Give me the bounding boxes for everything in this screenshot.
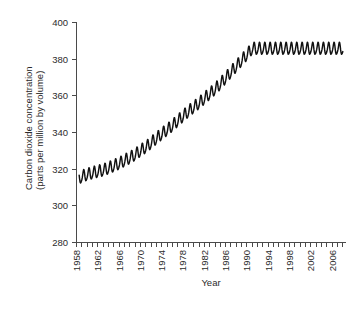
x-tick-label-1974: 1974 bbox=[156, 250, 167, 271]
y-tick-label-320: 320 bbox=[52, 164, 68, 175]
y-axis-title-line2: (parts per million by volume) bbox=[34, 71, 45, 190]
y-tick-label-360: 360 bbox=[52, 90, 68, 101]
y-tick-label-380: 380 bbox=[52, 54, 68, 65]
y-tick-label-300: 300 bbox=[52, 200, 68, 211]
x-axis-title: Year bbox=[201, 277, 220, 288]
y-axis-title-line1: Carbon dioxide concentration bbox=[23, 66, 34, 190]
keeling-curve-chart: Carbon dioxide concentration (parts per … bbox=[0, 0, 362, 309]
y-tick-label-400: 400 bbox=[52, 17, 68, 28]
x-tick-label-1958: 1958 bbox=[71, 250, 82, 271]
x-tick-label-1986: 1986 bbox=[220, 250, 231, 271]
chart-figure: Carbon dioxide concentration (parts per … bbox=[0, 0, 362, 309]
x-tick-label-1982: 1982 bbox=[199, 250, 210, 271]
y-tick-label-340: 340 bbox=[52, 127, 68, 138]
x-tick-label-2006: 2006 bbox=[327, 250, 338, 271]
x-tick-label-1970: 1970 bbox=[135, 250, 146, 271]
x-tick-label-1966: 1966 bbox=[114, 250, 125, 271]
x-tick-label-1994: 1994 bbox=[263, 250, 274, 271]
x-tick-label-2002: 2002 bbox=[305, 250, 316, 271]
x-tick-label-1962: 1962 bbox=[92, 250, 103, 271]
y-tick-label-280: 280 bbox=[52, 237, 68, 248]
x-tick-label-1978: 1978 bbox=[177, 250, 188, 271]
y-axis-title: Carbon dioxide concentration (parts per … bbox=[23, 66, 45, 190]
x-tick-label-1990: 1990 bbox=[241, 250, 252, 271]
x-tick-label-1998: 1998 bbox=[284, 250, 295, 271]
